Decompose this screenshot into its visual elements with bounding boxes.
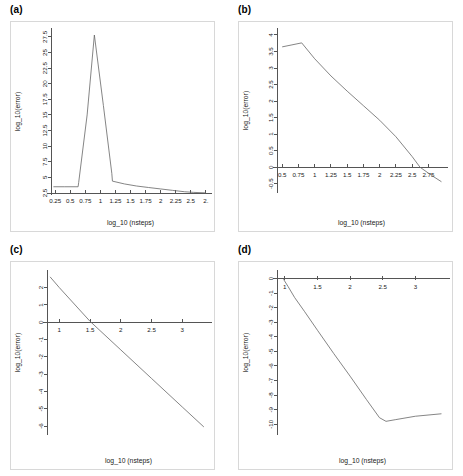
y-tick-label: -2 xyxy=(267,304,274,310)
y-tick-label: -3 xyxy=(267,319,274,325)
y-tick-label: -6 xyxy=(267,363,274,369)
y-axis-title: log_10(error) xyxy=(14,92,22,131)
x-tick-label: 2.5 xyxy=(378,283,387,290)
data-series-line xyxy=(50,277,204,427)
panel-c-label: (c) xyxy=(10,244,23,255)
y-tick-label: -2 xyxy=(37,354,44,360)
y-tick-label: -1 xyxy=(267,290,274,296)
panel-d: (d) -10-9-8-7-6-5-4-3-2-1011.522.53log_1… xyxy=(228,244,463,474)
panel-b: (b) -0.500.511.522.533.540.50.7511.251.5… xyxy=(228,4,463,236)
y-tick-label: -0.5 xyxy=(267,178,274,189)
y-tick-label: 0 xyxy=(267,165,274,169)
y-tick-label: 3 xyxy=(267,66,274,70)
panel-b-chart: -0.500.511.522.533.540.50.7511.251.51.75… xyxy=(239,22,452,231)
x-tick-label: 0.5 xyxy=(278,171,287,178)
panel-b-plot-box: -0.500.511.522.533.540.50.7511.251.51.75… xyxy=(238,21,453,232)
y-tick-label: 25 xyxy=(41,48,48,55)
y-tick-label: 0.5 xyxy=(267,146,274,155)
x-axis-title: log_10 (nsteps) xyxy=(105,457,152,465)
x-tick-label: 2 xyxy=(348,283,352,290)
panel-c-chart: -6-5-4-3-2-101211.522.53log_10 (nsteps)l… xyxy=(11,262,214,469)
y-tick-label: -7 xyxy=(267,377,274,383)
y-axis-title: log_10(error) xyxy=(14,333,22,372)
y-tick-label: 15 xyxy=(41,111,48,118)
x-tick-label: 3 xyxy=(414,283,418,290)
panel-d-label: (d) xyxy=(238,244,251,255)
data-series-line xyxy=(284,279,442,421)
y-tick-label: -4 xyxy=(267,334,274,340)
y-tick-label: -5 xyxy=(37,405,44,411)
x-tick-label: 0.25 xyxy=(49,197,62,204)
y-tick-label: 7.5 xyxy=(41,157,48,166)
x-tick-label: 1.5 xyxy=(313,283,322,290)
x-axis-title: log_10 (nsteps) xyxy=(107,219,154,227)
x-tick-label: 0.75 xyxy=(79,197,92,204)
y-tick-label: 0 xyxy=(37,320,44,324)
x-tick-label: 1.25 xyxy=(325,171,338,178)
y-tick-label: 5 xyxy=(41,175,48,179)
panel-c-plot-box: -6-5-4-3-2-101211.522.53log_10 (nsteps)l… xyxy=(10,261,215,470)
figure-container: (a) 2.557.51012.51517.52022.52527.50.250… xyxy=(0,0,463,476)
panel-d-plot-box: -10-9-8-7-6-5-4-3-2-1011.522.53log_10 (n… xyxy=(238,261,453,470)
panel-a-chart: 2.557.51012.51517.52022.52527.50.250.50.… xyxy=(11,22,214,231)
y-axis-title: log_10(error) xyxy=(242,333,250,372)
y-tick-label: 2 xyxy=(267,99,274,103)
panel-a-plot-box: 2.557.51012.51517.52022.52527.50.250.50.… xyxy=(10,21,215,232)
x-tick-label: 2.5 xyxy=(147,326,156,333)
y-tick-label: 1 xyxy=(37,303,44,307)
x-tick-label: 2.5 xyxy=(186,197,195,204)
data-series-line xyxy=(282,43,441,182)
x-tick-label: 1.5 xyxy=(126,197,135,204)
x-tick-label: 1 xyxy=(313,171,317,178)
y-tick-label: 2.5 xyxy=(41,188,48,197)
y-tick-label: 22.5 xyxy=(41,62,48,75)
x-axis-title: log_10 (nsteps) xyxy=(339,457,386,465)
panel-c: (c) -6-5-4-3-2-101211.522.53log_10 (nste… xyxy=(0,244,223,474)
x-tick-label: 1 xyxy=(99,197,103,204)
x-axis-title: log_10 (nsteps) xyxy=(338,219,385,227)
panel-a-label: (a) xyxy=(10,4,23,15)
x-tick-label: 0.75 xyxy=(292,171,305,178)
y-tick-label: -3 xyxy=(37,371,44,377)
y-tick-label: -5 xyxy=(267,348,274,354)
x-tick-label: 0.5 xyxy=(66,197,75,204)
y-tick-label: -8 xyxy=(267,392,274,398)
y-axis-title: log_10(error) xyxy=(242,91,250,130)
x-tick-label: 1.5 xyxy=(343,171,352,178)
x-tick-label: 1.5 xyxy=(86,326,95,333)
data-series-line xyxy=(53,35,205,193)
y-tick-label: 0 xyxy=(267,276,274,280)
panel-d-chart: -10-9-8-7-6-5-4-3-2-1011.522.53log_10 (n… xyxy=(239,262,452,469)
x-tick-label: 2.75 xyxy=(422,171,435,178)
x-tick-label: 2 xyxy=(159,197,163,204)
x-tick-label: 2.5 xyxy=(408,171,417,178)
y-tick-label: 17.5 xyxy=(41,93,48,106)
y-tick-label: 2 xyxy=(37,285,44,289)
y-tick-label: 20 xyxy=(41,80,48,87)
y-tick-label: 3.5 xyxy=(267,47,274,56)
y-tick-label: 4 xyxy=(267,33,274,37)
x-tick-label: 2 xyxy=(378,171,382,178)
y-tick-label: 2.5 xyxy=(267,80,274,89)
y-tick-label: -10 xyxy=(267,419,274,429)
panel-a: (a) 2.557.51012.51517.52022.52527.50.250… xyxy=(0,4,223,236)
x-tick-label: 1 xyxy=(58,326,62,333)
y-tick-label: -9 xyxy=(267,406,274,412)
x-tick-label: 2.25 xyxy=(390,171,403,178)
x-tick-label: 2. xyxy=(203,197,208,204)
x-tick-label: 1.75 xyxy=(357,171,370,178)
panel-b-label: (b) xyxy=(238,4,251,15)
x-tick-label: 3 xyxy=(181,326,185,333)
y-tick-label: 10 xyxy=(41,142,48,149)
y-tick-label: -6 xyxy=(37,423,44,429)
x-tick-label: 1.75 xyxy=(140,197,153,204)
y-tick-label: 27.5 xyxy=(41,30,48,43)
y-tick-label: 12.5 xyxy=(41,124,48,137)
y-tick-label: 1 xyxy=(267,132,274,136)
x-tick-label: 1.25 xyxy=(109,197,122,204)
x-tick-label: 2 xyxy=(119,326,123,333)
y-tick-label: 1.5 xyxy=(267,113,274,122)
x-tick-label: 2.25 xyxy=(170,197,183,204)
y-tick-label: -1 xyxy=(37,336,44,342)
y-tick-label: -4 xyxy=(37,388,44,394)
